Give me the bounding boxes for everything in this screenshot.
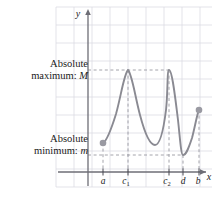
plot-canvas: y x a c1 c2 d b: [0, 0, 219, 197]
x-axis-arrow: [200, 169, 206, 175]
function-curve: [103, 70, 199, 155]
y-axis-arrow: [85, 9, 91, 15]
x-axis: [58, 169, 206, 175]
grid-lines: [56, 7, 212, 187]
annotation-max-line2-wrap: maximum: M: [4, 70, 88, 82]
y-axis-label: y: [75, 8, 81, 19]
x-tick-label-a: a: [101, 176, 106, 186]
endpoint-dot-b: [196, 107, 203, 114]
x-axis-label: x: [206, 171, 212, 182]
x-tick-label-b: b: [196, 176, 201, 186]
figure-absolute-extrema: y x a c1 c2 d b Absolute maximum: M Abso…: [0, 0, 219, 197]
x-tick-labels: a c1 c2 d b: [101, 176, 201, 187]
annotation-min-line1: Absolute: [4, 133, 88, 145]
annotation-max-symbol: M: [79, 70, 88, 81]
x-tick-label-c1: c1: [122, 176, 129, 187]
x-tick-label-c2: c2: [163, 176, 170, 187]
y-axis: [85, 9, 91, 186]
annotation-absolute-maximum: Absolute maximum: M: [4, 58, 88, 81]
dashed-vertical-lines: [103, 70, 199, 172]
endpoint-markers: [100, 107, 203, 147]
annotation-max-line2: maximum:: [31, 70, 77, 81]
x-tick-label-d: d: [181, 176, 186, 186]
annotation-absolute-minimum: Absolute minimum: m: [4, 133, 88, 156]
annotation-min-line2: minimum:: [34, 145, 78, 156]
annotation-min-line2-wrap: minimum: m: [4, 145, 88, 157]
annotation-min-symbol: m: [80, 145, 88, 156]
endpoint-dot-a: [100, 140, 107, 147]
annotation-max-line1: Absolute: [4, 58, 88, 70]
